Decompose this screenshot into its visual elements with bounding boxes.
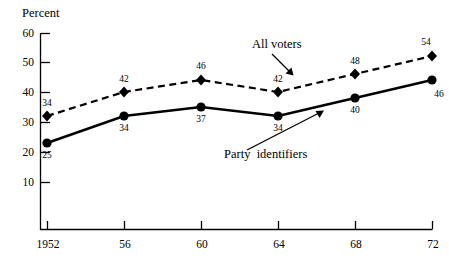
x-tick-label: 1952 (27, 239, 69, 251)
data-label-party-identifiers: 40 (344, 106, 366, 116)
data-label-party-identifiers: 34 (267, 124, 289, 134)
x-tick-marks (48, 221, 433, 229)
annotation-all-voters: All voters (252, 38, 302, 51)
line-chart: Percent (0, 0, 449, 264)
y-tick-label: 20 (12, 147, 34, 159)
data-label-party-identifiers: 25 (36, 151, 58, 161)
data-label-all-voters: 42 (113, 75, 135, 85)
y-tick-label: 60 (12, 28, 34, 40)
data-label-party-identifiers: 37 (190, 115, 212, 125)
y-tick-label: 40 (12, 87, 34, 99)
data-label-all-voters: 46 (190, 62, 212, 72)
series-party-identifiers-line (47, 80, 432, 143)
x-tick-label: 68 (341, 239, 371, 251)
all-voters-arrow (272, 54, 294, 76)
x-tick-label: 60 (187, 239, 217, 251)
plot-area (0, 0, 449, 264)
series-all-voters-line (47, 56, 432, 116)
data-label-all-voters: 48 (344, 57, 366, 67)
annotation-party-identifiers: Party identifiers (224, 148, 307, 161)
y-tick-label: 10 (12, 177, 34, 189)
y-tick-label: 30 (12, 117, 34, 129)
data-label-all-voters: 34 (36, 99, 58, 109)
y-tick-label: 50 (12, 57, 34, 69)
data-label-all-voters: 54 (415, 38, 437, 48)
x-tick-label: 64 (264, 239, 294, 251)
data-label-party-identifiers: 34 (113, 124, 135, 134)
x-tick-label: 56 (110, 239, 140, 251)
data-label-all-voters: 42 (267, 75, 289, 85)
x-tick-label: 72 (418, 239, 448, 251)
data-label-party-identifiers: 46 (428, 90, 449, 100)
